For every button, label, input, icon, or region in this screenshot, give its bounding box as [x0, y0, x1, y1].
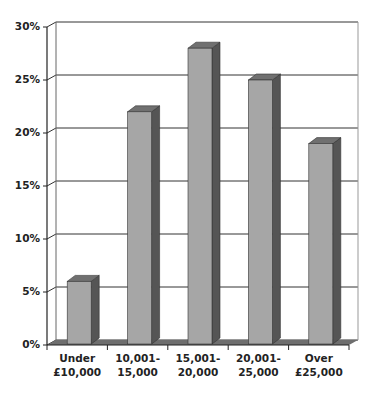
x-category-label: Over£25,000: [287, 351, 351, 379]
gridline-side: [47, 287, 56, 292]
bar-side: [91, 275, 99, 344]
chart-canvas: [0, 0, 378, 398]
bar-chart: 0%5%10%15%20%25%30% Under£10,00010,001-1…: [0, 0, 378, 398]
bar-4: [309, 144, 333, 344]
bar-3: [248, 80, 272, 344]
bar-0: [67, 281, 91, 344]
x-category-label: 20,001-25,000: [226, 351, 290, 379]
y-tick-label: 25%: [0, 73, 40, 85]
bar-side: [212, 42, 220, 344]
gridline-side: [47, 128, 56, 133]
y-tick-label: 0%: [0, 338, 40, 350]
gridline-side: [47, 181, 56, 186]
y-tick-label: 10%: [0, 232, 40, 244]
y-tick-label: 30%: [0, 20, 40, 32]
gridline-side: [47, 75, 56, 80]
bar-1: [128, 112, 152, 344]
y-tick-label: 5%: [0, 285, 40, 297]
bar-side: [272, 74, 280, 344]
y-tick-label: 15%: [0, 179, 40, 191]
bar-side: [152, 106, 160, 344]
bar-side: [333, 138, 341, 344]
y-tick-label: 20%: [0, 126, 40, 138]
bar-2: [188, 48, 212, 344]
gridline-side: [47, 22, 56, 27]
x-category-label: 15,001-20,000: [166, 351, 230, 379]
x-category-label: Under£10,000: [45, 351, 109, 379]
gridline-side: [47, 234, 56, 239]
x-category-label: 10,001-15,000: [106, 351, 170, 379]
